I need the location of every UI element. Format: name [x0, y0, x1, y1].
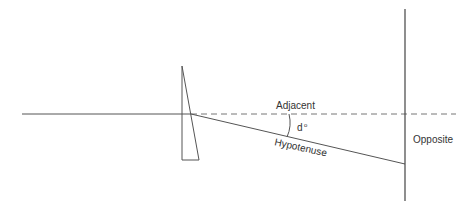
angle-arc: [287, 114, 290, 137]
angle-label: d: [297, 122, 303, 133]
opposite-label: Opposite: [413, 134, 453, 145]
angle-degree-symbol: o: [304, 122, 308, 128]
diagram-canvas: Adjacent d o Hypotenuse Opposite: [0, 0, 468, 211]
prism: [182, 66, 199, 160]
adjacent-label: Adjacent: [276, 100, 315, 111]
